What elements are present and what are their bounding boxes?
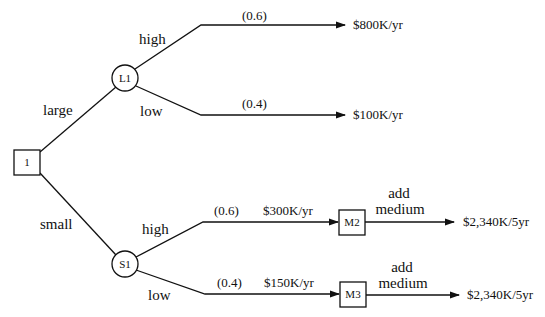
prob-l1-high: (0.6): [242, 8, 267, 23]
edge-label-s1-low: low: [148, 287, 171, 303]
node-m2: M2: [339, 210, 365, 235]
node-s1-label: S1: [119, 258, 131, 270]
prob-s1-low: (0.4): [217, 275, 242, 290]
value-s1-low: $150K/yr: [264, 275, 315, 290]
edge-l1-high: [135, 25, 345, 69]
edge-label-small: small: [40, 216, 73, 232]
edge-l1-low: [136, 86, 345, 115]
outcome-l1-high: $800K/yr: [353, 17, 404, 32]
prob-l1-low: (0.4): [242, 96, 267, 111]
prob-s1-high: (0.6): [214, 203, 239, 218]
decision-tree-diagram: large small high (0.6) $800K/yr low (0.4…: [0, 0, 545, 317]
edge-root-to-l1: [40, 87, 116, 152]
outcome-m3: $2,340K/5yr: [467, 287, 534, 302]
edge-label-l1-low: low: [140, 103, 163, 119]
outcome-m2: $2,340K/5yr: [463, 214, 530, 229]
edge-label-m3-add: add: [391, 259, 413, 275]
node-l1-label: L1: [119, 72, 131, 84]
outcome-l1-low: $100K/yr: [353, 107, 404, 122]
node-root: 1: [14, 150, 40, 175]
edge-label-s1-high: high: [142, 221, 169, 237]
edge-label-large: large: [43, 102, 73, 118]
edge-root-to-s1: [40, 173, 116, 255]
edge-label-m2-medium: medium: [375, 201, 424, 217]
edge-label-m3-medium: medium: [378, 275, 427, 291]
node-m3-label: M3: [345, 288, 361, 300]
value-s1-high: $300K/yr: [263, 203, 314, 218]
node-root-label: 1: [24, 156, 30, 168]
edge-label-m2-add: add: [388, 185, 410, 201]
node-l1: L1: [112, 65, 138, 91]
node-s1: S1: [112, 251, 138, 277]
edge-label-l1-high: high: [139, 31, 166, 47]
node-m2-label: M2: [344, 216, 359, 228]
node-m3: M3: [340, 282, 366, 307]
